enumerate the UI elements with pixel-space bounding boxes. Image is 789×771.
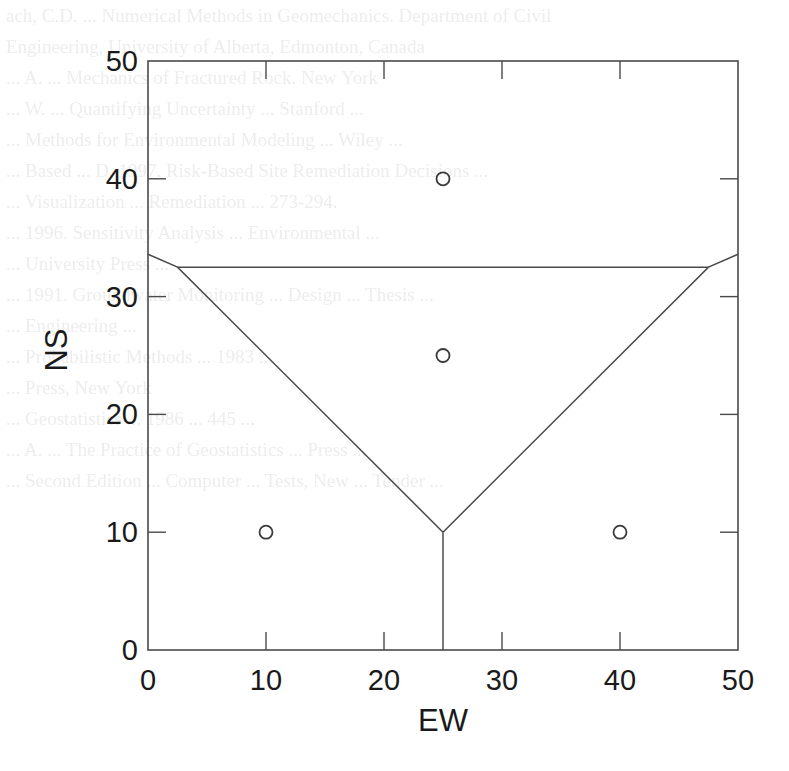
x-tick-label: 20 xyxy=(368,664,400,696)
y-tick-label: 30 xyxy=(106,281,138,313)
boundary-lines xyxy=(148,254,738,650)
left-boundary-line xyxy=(148,254,443,532)
data-points xyxy=(260,172,627,538)
x-axis-tick-labels: 01020304050 xyxy=(140,664,754,696)
chart: 01020304050 01020304050 EW NS xyxy=(0,0,789,771)
y-tick-label: 40 xyxy=(106,163,138,195)
x-tick-label: 40 xyxy=(604,664,636,696)
x-tick-label: 50 xyxy=(722,664,754,696)
data-point-marker xyxy=(437,349,450,362)
x-axis-title: EW xyxy=(418,703,469,738)
y-axis-title: NS xyxy=(39,328,74,371)
data-point-marker xyxy=(260,526,273,539)
data-point-marker xyxy=(614,526,627,539)
y-tick-label: 20 xyxy=(106,398,138,430)
x-tick-label: 10 xyxy=(250,664,282,696)
x-tick-label: 30 xyxy=(486,664,518,696)
y-axis-tick-labels: 01020304050 xyxy=(106,45,138,666)
y-tick-label: 50 xyxy=(106,45,138,77)
y-tick-label: 10 xyxy=(106,516,138,548)
data-point-marker xyxy=(437,172,450,185)
right-boundary-line xyxy=(443,254,738,532)
y-tick-label: 0 xyxy=(122,634,138,666)
x-tick-label: 0 xyxy=(140,664,156,696)
